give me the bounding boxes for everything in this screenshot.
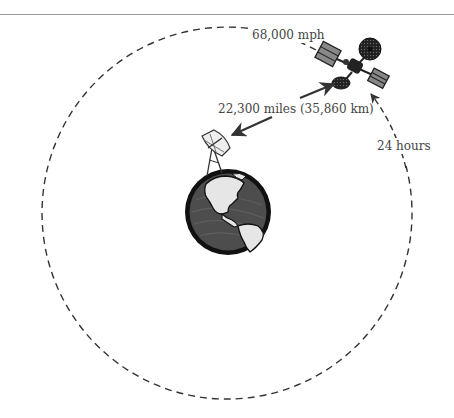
distance-arrow-to-dish [232, 117, 272, 135]
earth-icon [185, 169, 271, 255]
distance-arrow-to-satellite [300, 84, 334, 98]
orbit-direction-arrow [371, 94, 406, 168]
satellite-icon [315, 38, 389, 89]
geostationary-orbit-diagram: 68,000 mph 22,300 miles (35,860 km) 24 h… [0, 0, 454, 418]
speed-label: 68,000 mph [252, 28, 325, 42]
distance-label: 22,300 miles (35,860 km) [218, 102, 374, 116]
period-label: 24 hours [377, 139, 431, 153]
